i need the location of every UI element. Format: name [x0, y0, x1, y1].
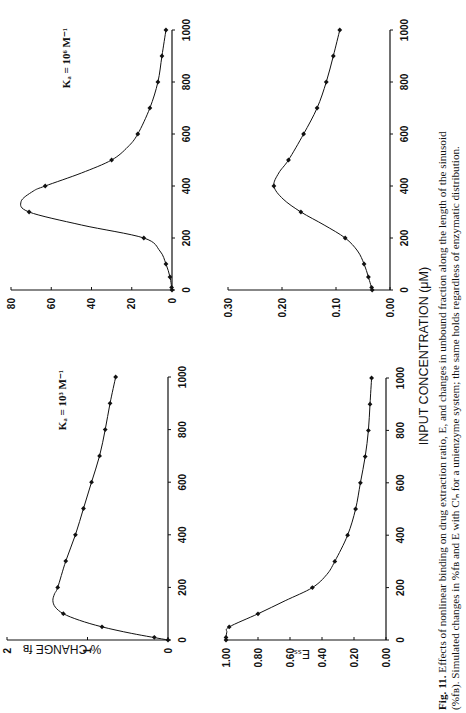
- concentration-tick-label: 200: [177, 579, 188, 596]
- data-point-marker: [108, 401, 113, 406]
- concentration-tick-label: 1000: [177, 365, 188, 388]
- data-point-marker: [368, 402, 373, 407]
- data-point-marker: [272, 184, 277, 189]
- data-point-marker: [224, 635, 229, 640]
- concentration-tick-label: 200: [395, 579, 406, 596]
- ylabel-fb: % CHANGE fʙ: [23, 642, 101, 656]
- figure-11: 02040608002004006008001000Kₐ = 10⁶ M⁻¹ 0…: [0, 0, 466, 713]
- data-point-marker: [141, 236, 146, 241]
- value-tick-label: 0.80: [253, 648, 264, 668]
- chart-fb-ka6: 02040608002004006008001000Kₐ = 10⁶ M⁻¹: [6, 18, 193, 309]
- caption-line-2: (%fʙ). Simulated changes in %fʙ and E wi…: [449, 146, 462, 710]
- concentration-tick-label: 0: [181, 287, 192, 293]
- data-point-marker: [89, 480, 94, 485]
- data-point-marker: [301, 132, 306, 137]
- data-point-marker: [164, 262, 169, 267]
- data-point-marker: [363, 454, 368, 459]
- concentration-tick-label: 1000: [399, 18, 410, 41]
- value-tick-label: 2: [2, 648, 13, 654]
- concentration-tick-label: 600: [181, 125, 192, 142]
- concentration-tick-label: 600: [177, 473, 188, 490]
- data-curve: [53, 377, 168, 640]
- data-point-marker: [81, 506, 86, 511]
- data-point-marker: [345, 533, 350, 538]
- data-point-marker: [362, 262, 367, 267]
- concentration-tick-label: 400: [181, 177, 192, 194]
- value-tick-label: 0.40: [317, 648, 328, 668]
- concentration-tick-label: 200: [181, 229, 192, 246]
- concentration-tick-label: 0: [395, 637, 406, 643]
- concentration-tick-label: 400: [395, 526, 406, 543]
- caption-text-1: Effects of nonlinear binding on drug ext…: [436, 131, 448, 673]
- concentration-tick-label: 400: [399, 177, 410, 194]
- data-curve: [21, 30, 172, 290]
- concentration-tick-label: 1000: [395, 366, 406, 389]
- concentration-tick-label: 400: [177, 526, 188, 543]
- data-point-marker: [366, 428, 371, 433]
- caption-label: Fig. 11.: [436, 675, 448, 710]
- value-tick-label: 0: [167, 298, 178, 304]
- value-tick-label: 60: [46, 298, 57, 310]
- data-point-marker: [337, 28, 342, 33]
- data-point-marker: [324, 80, 329, 85]
- data-point-marker: [103, 427, 108, 432]
- data-point-marker: [160, 54, 165, 59]
- concentration-tick-label: 600: [395, 474, 406, 491]
- data-point-marker: [299, 210, 304, 215]
- data-curve: [226, 378, 372, 640]
- data-point-marker: [100, 624, 105, 629]
- data-point-marker: [353, 507, 358, 512]
- data-point-marker: [135, 132, 140, 137]
- chart-ess-ka6: 0.000.100.200.3002004006008001000: [223, 18, 411, 317]
- value-tick-label: 20: [126, 298, 137, 310]
- concentration-tick-label: 800: [399, 73, 410, 90]
- data-point-marker: [164, 28, 169, 33]
- shared-xlabel: INPUT CONCENTRATION (μM): [417, 267, 431, 445]
- data-point-marker: [358, 480, 363, 485]
- chart-ess-ka3: 0.000.200.400.600.801.000200400600800100…: [221, 366, 407, 667]
- value-tick-label: 0.20: [277, 298, 288, 318]
- data-point-marker: [331, 54, 336, 59]
- data-point-marker: [27, 210, 32, 215]
- data-point-marker: [156, 80, 161, 85]
- concentration-tick-label: 800: [181, 73, 192, 90]
- concentration-tick-label: 0: [399, 287, 410, 293]
- caption-line-1: Fig. 11. Effects of nonlinear binding on…: [436, 131, 448, 710]
- value-tick-label: 1.00: [221, 648, 232, 668]
- chart-fb-ka3: 01202004006008001000Kₐ = 10³ M⁻¹: [2, 365, 189, 653]
- data-point-marker: [256, 611, 261, 616]
- data-point-marker: [332, 559, 337, 564]
- data-point-marker: [369, 376, 374, 381]
- concentration-tick-label: 1000: [181, 18, 192, 41]
- data-point-marker: [55, 585, 60, 590]
- data-point-marker: [166, 638, 171, 643]
- figure-caption: Fig. 11. Effects of nonlinear binding on…: [436, 131, 462, 710]
- value-tick-label: 0: [163, 648, 174, 654]
- data-point-marker: [63, 559, 68, 564]
- data-point-marker: [366, 275, 371, 280]
- data-point-marker: [315, 106, 320, 111]
- data-point-marker: [147, 106, 152, 111]
- value-tick-label: 0.00: [381, 648, 392, 668]
- data-point-marker: [61, 611, 66, 616]
- concentration-tick-label: 800: [177, 421, 188, 438]
- concentration-tick-label: 200: [399, 229, 410, 246]
- data-point-marker: [73, 532, 78, 537]
- concentration-tick-label: 0: [177, 637, 188, 643]
- data-point-marker: [109, 158, 114, 163]
- value-tick-label: 0.20: [349, 648, 360, 668]
- data-point-marker: [113, 375, 118, 380]
- value-tick-label: 0.30: [223, 298, 234, 318]
- value-tick-label: 40: [86, 298, 97, 310]
- ylabel-ess: Eₛₛ: [294, 647, 310, 661]
- concentration-tick-label: 800: [395, 422, 406, 439]
- ka-annotation: Kₐ = 10³ M⁻¹: [56, 370, 68, 430]
- concentration-tick-label: 600: [399, 125, 410, 142]
- value-tick-label: 0.00: [385, 298, 396, 318]
- value-tick-label: 80: [6, 298, 17, 310]
- ka-annotation: Kₐ = 10⁶ M⁻¹: [60, 28, 72, 88]
- data-point-marker: [152, 635, 157, 640]
- data-point-marker: [43, 184, 48, 189]
- data-point-marker: [97, 454, 102, 459]
- value-tick-label: 0.10: [331, 298, 342, 318]
